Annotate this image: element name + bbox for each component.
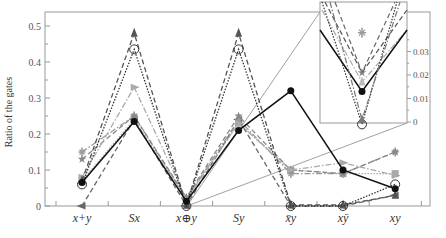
inset-tick-label: 0.02 [413, 70, 429, 80]
y-axis-label: Ratio of the gates [3, 77, 14, 147]
y-axis: 00.10.20.30.40.5 [29, 21, 51, 212]
y-tick-label: 0 [36, 201, 41, 212]
y-tick-label: 0.2 [29, 129, 42, 140]
data-point-filled-circle [131, 118, 138, 125]
x-tick-label: xȳ [337, 211, 349, 225]
y-tick-label: 0.3 [29, 93, 42, 104]
data-point-filled-circle [79, 179, 86, 186]
data-point-triangle-up [131, 28, 138, 37]
x-tick-label: x+y [72, 211, 92, 225]
inset-frame [320, 2, 407, 123]
data-point-triangle-right [340, 159, 349, 166]
x-tick-label: xy [389, 211, 401, 225]
x-tick-label: Sx [129, 211, 141, 225]
inset-connector-top [187, 12, 320, 206]
chart-figure: 00.10.20.30.40.5 x+ySxx⊕ySyx̄yxȳxy Rati… [0, 0, 446, 238]
data-point-triangle-left [77, 203, 86, 210]
data-point-filled-circle [287, 87, 294, 94]
data-point-filled-circle [235, 127, 242, 134]
inset-tick-label: 0.01 [413, 94, 429, 104]
x-tick-label: x⊕y [175, 211, 197, 225]
y-tick-label: 0.1 [29, 165, 42, 176]
data-point-triangle-up [235, 28, 242, 37]
x-tick-label: Sy [233, 211, 245, 225]
inset-y-axis: 00.010.020.03 [407, 40, 429, 127]
inset-tick-label: 0 [413, 117, 418, 127]
data-point-filled-circle [340, 167, 347, 174]
x-tick-label: x̄y [284, 211, 296, 225]
data-point-filled-circle [359, 88, 366, 95]
y-tick-label: 0.4 [29, 57, 42, 68]
inset-tick-label: 0.03 [413, 47, 429, 57]
data-point-filled-circle [392, 185, 399, 192]
x-axis: x+ySxx⊕ySyx̄yxȳxy [56, 201, 421, 225]
data-point-filled-circle [183, 198, 190, 205]
inset-zoom: 00.010.020.03 [320, 2, 429, 129]
inset-connector-bottom [187, 123, 407, 206]
y-tick-label: 0.5 [29, 21, 42, 32]
